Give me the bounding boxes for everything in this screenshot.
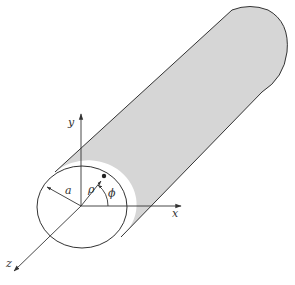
- cylinder-diagram: y x z a ρ ϕ: [0, 0, 295, 285]
- rho-label: ρ: [87, 183, 95, 196]
- z-axis-label: z: [5, 257, 12, 270]
- radius-a-label: a: [65, 184, 72, 197]
- y-axis-label: y: [67, 116, 75, 129]
- point-marker: [102, 174, 106, 178]
- phi-label: ϕ: [108, 187, 116, 200]
- x-axis-label: x: [172, 207, 179, 220]
